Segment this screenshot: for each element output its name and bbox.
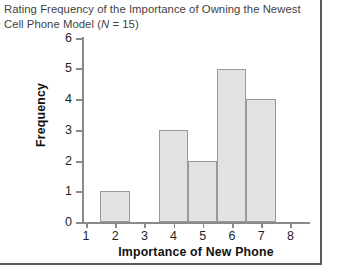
figure-border-bottom [0,263,322,265]
y-tick-label-2: 2 [58,154,72,168]
x-tick-label-8: 8 [280,229,300,243]
x-tick-8 [290,222,292,228]
y-tick-5 [76,68,82,70]
x-axis-label: Importance of New Phone [82,245,310,259]
y-tick-2 [76,161,82,163]
x-tick-5 [203,222,205,228]
bar-4 [159,130,188,222]
x-tick-label-3: 3 [134,229,154,243]
y-tick-6 [76,38,82,40]
figure-border-right [320,0,322,264]
y-tick-1 [76,191,82,193]
x-tick-1 [86,222,88,228]
x-tick-2 [115,222,117,228]
bar-7 [246,99,275,222]
bar-6 [217,69,246,222]
y-tick-label-6: 6 [58,31,72,45]
x-tick-label-7: 7 [251,229,271,243]
x-tick-label-6: 6 [222,229,242,243]
bar-2 [100,191,129,222]
y-tick-label-3: 3 [58,123,72,137]
y-tick-4 [76,99,82,101]
x-tick-4 [174,222,176,228]
figure-container: Rating Frequency of the Importance of Ow… [0,0,337,274]
x-tick-label-2: 2 [105,229,125,243]
x-tick-label-1: 1 [76,229,96,243]
x-tick-label-4: 4 [164,229,184,243]
y-tick-label-4: 4 [58,92,72,106]
y-tick-label-5: 5 [58,61,72,75]
x-tick-6 [232,222,234,228]
y-tick-3 [76,130,82,132]
x-tick-3 [144,222,146,228]
x-tick-7 [261,222,263,228]
y-axis-line [82,37,84,223]
y-tick-label-1: 1 [58,184,72,198]
y-tick-label-0: 0 [58,215,72,229]
x-tick-label-5: 5 [193,229,213,243]
y-tick-0 [76,222,82,224]
y-axis-label: Frequency [34,65,48,165]
bar-5 [188,161,217,222]
plot-area: 0 1 2 3 4 5 6 1 2 3 4 5 6 7 [0,0,337,274]
